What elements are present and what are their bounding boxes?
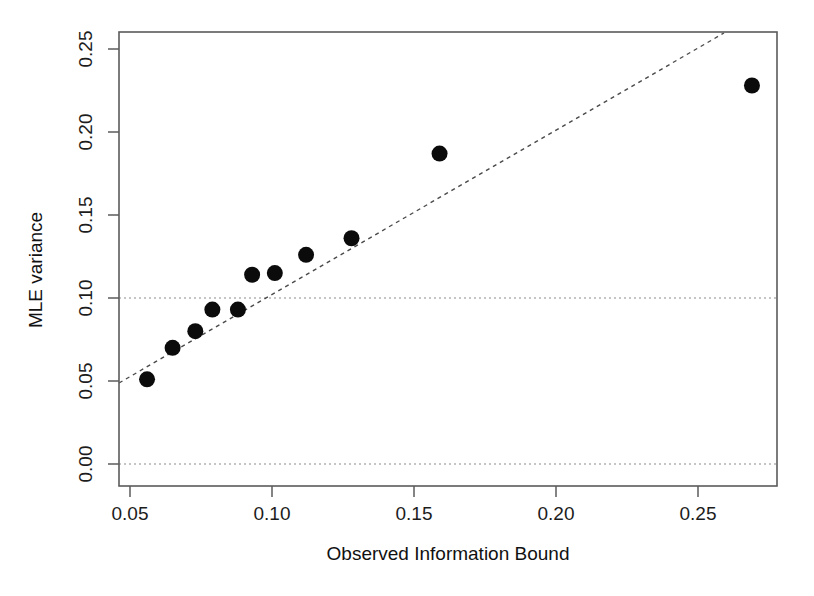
x-tick-label-2: 0.15	[396, 503, 433, 524]
data-point	[165, 340, 181, 356]
data-point	[139, 371, 155, 387]
data-point	[244, 267, 260, 283]
y-tick-label-0: 0.00	[75, 446, 96, 483]
y-tick-label-2: 0.10	[75, 280, 96, 317]
y-tick-label-5: 0.25	[75, 31, 96, 68]
y-tick-label-3: 0.15	[75, 197, 96, 234]
x-tick-label-0: 0.05	[112, 503, 149, 524]
x-tick-label-1: 0.10	[254, 503, 291, 524]
y-tick-label-4: 0.20	[75, 114, 96, 151]
data-point	[344, 230, 360, 246]
data-point	[744, 78, 760, 94]
plot-canvas: 0.05 0.10 0.15 0.20 0.25 0.00 0.05 0.10 …	[0, 0, 814, 596]
data-point	[298, 247, 314, 263]
x-tick-label-4: 0.25	[680, 503, 717, 524]
data-point	[204, 302, 220, 318]
data-point	[432, 146, 448, 162]
data-point	[187, 323, 203, 339]
x-axis-title: Observed Information Bound	[327, 543, 570, 564]
data-point	[230, 302, 246, 318]
x-tick-label-3: 0.20	[538, 503, 575, 524]
scatter-plot-figure: 0.05 0.10 0.15 0.20 0.25 0.00 0.05 0.10 …	[0, 0, 814, 596]
y-axis-title: MLE variance	[25, 212, 46, 328]
y-tick-label-1: 0.05	[75, 363, 96, 400]
data-point	[267, 265, 283, 281]
